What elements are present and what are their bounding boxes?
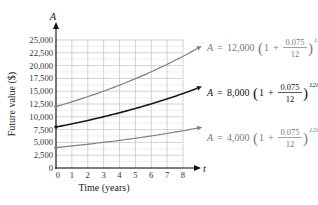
eq-lhs: A — [206, 87, 214, 98]
y-tick-label: 15,000 — [29, 86, 53, 96]
eq-denominator: 12 — [291, 49, 300, 59]
y-tick-label: 10,000 — [29, 112, 53, 122]
future-value-chart: 02,5005,0007,50010,00012,50015,00017,500… — [0, 0, 318, 205]
x-tick-label: 3 — [101, 170, 105, 180]
eq-principal: 12,000 — [227, 42, 255, 53]
x-axis-arrow-icon — [194, 165, 201, 171]
series-line — [56, 128, 197, 147]
paren-right: ) — [308, 40, 313, 57]
start-point — [54, 105, 58, 109]
eq-numerator: 0.075 — [280, 82, 299, 92]
eq-plus: + — [273, 42, 279, 53]
x-tick-labels: 012345678 — [56, 170, 185, 180]
x-tick-label: 0 — [56, 170, 60, 180]
y-tick-labels: 02,5005,0007,50010,00012,50015,00017,500… — [29, 35, 53, 173]
y-tick-label: 0 — [49, 163, 53, 173]
eq-one: 1 — [259, 87, 264, 98]
y-axis-label: Future value ($) — [6, 72, 18, 136]
y-tick-label: 25,000 — [29, 35, 53, 45]
eq-denominator: 12 — [286, 139, 295, 149]
y-axis-variable: A — [49, 11, 57, 22]
eq-one: 1 — [259, 132, 264, 143]
x-tick-label: 1 — [70, 170, 74, 180]
x-tick-label: 8 — [181, 170, 185, 180]
arrow-head-icon — [197, 126, 202, 131]
eq-sign: = — [217, 87, 223, 98]
eq-lhs: A — [206, 132, 214, 143]
paren-right: ) — [303, 130, 308, 147]
eq-denominator: 12 — [286, 94, 295, 104]
eq-sign: = — [217, 132, 223, 143]
eq-numerator: 0.075 — [285, 37, 304, 47]
x-tick-label: 2 — [86, 170, 90, 180]
y-tick-label: 20,000 — [29, 61, 53, 71]
start-point — [54, 146, 58, 150]
eq-sign: = — [217, 42, 223, 53]
paren-right: ) — [303, 85, 308, 102]
x-tick-label: 5 — [133, 170, 137, 180]
x-axis-label: Time (years) — [78, 182, 129, 194]
x-tick-label: 4 — [117, 170, 122, 180]
series-line — [56, 88, 197, 127]
paren-left: ( — [253, 130, 258, 147]
eq-principal: 4,000 — [227, 132, 250, 143]
equation-annotations: A=12,000(1+0.07512)12tA=8,000(1+0.07512)… — [206, 36, 318, 149]
eq-principal: 8,000 — [227, 87, 250, 98]
y-axis-arrow-icon — [53, 22, 59, 29]
y-tick-label: 12,500 — [29, 99, 53, 109]
eq-exponent: 12t — [309, 126, 318, 134]
eq-exponent: 12t — [314, 36, 318, 44]
eq-numerator: 0.075 — [280, 127, 299, 137]
start-point — [54, 125, 58, 129]
eq-plus: + — [268, 87, 274, 98]
y-tick-label: 7,500 — [34, 125, 53, 135]
y-tick-label: 17,500 — [29, 73, 53, 83]
y-tick-label: 5,000 — [34, 137, 53, 147]
eq-one: 1 — [264, 42, 269, 53]
paren-left: ( — [258, 40, 263, 57]
x-tick-label: 7 — [165, 170, 170, 180]
eq-lhs: A — [206, 42, 214, 53]
equation-label: A=8,000(1+0.07512)12t — [206, 81, 318, 104]
eq-plus: + — [268, 132, 274, 143]
paren-left: ( — [253, 85, 258, 102]
grid — [56, 40, 183, 168]
x-axis-variable: t — [203, 163, 207, 174]
y-tick-label: 2,500 — [34, 150, 53, 160]
eq-exponent: 12t — [309, 81, 318, 89]
y-tick-label: 22,500 — [29, 48, 53, 58]
x-tick-label: 6 — [149, 170, 154, 180]
equation-label: A=12,000(1+0.07512)12t — [206, 36, 318, 59]
equation-label: A=4,000(1+0.07512)12t — [206, 126, 318, 149]
